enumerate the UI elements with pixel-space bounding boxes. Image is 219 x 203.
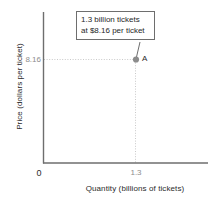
y-axis-tick-label: 8.16: [22, 55, 41, 64]
x-axis-tick-label: 1.3: [124, 168, 148, 177]
y-axis-title: Price (dollars per ticket): [15, 32, 24, 142]
data-point-a-label: A: [142, 54, 147, 63]
data-point-a: [133, 56, 139, 62]
callout-line-1: 1.3 billion tickets: [81, 14, 151, 25]
price-quantity-chart: 1.3 billion tickets at $8.16 per ticket …: [0, 0, 219, 203]
x-axis-title: Quantity (billions of tickets): [60, 184, 210, 193]
origin-label: 0: [33, 168, 45, 178]
callout-leader-line: [137, 42, 141, 57]
callout-line-2: at $8.16 per ticket: [81, 25, 151, 36]
point-a-callout: 1.3 billion tickets at $8.16 per ticket: [76, 11, 155, 40]
